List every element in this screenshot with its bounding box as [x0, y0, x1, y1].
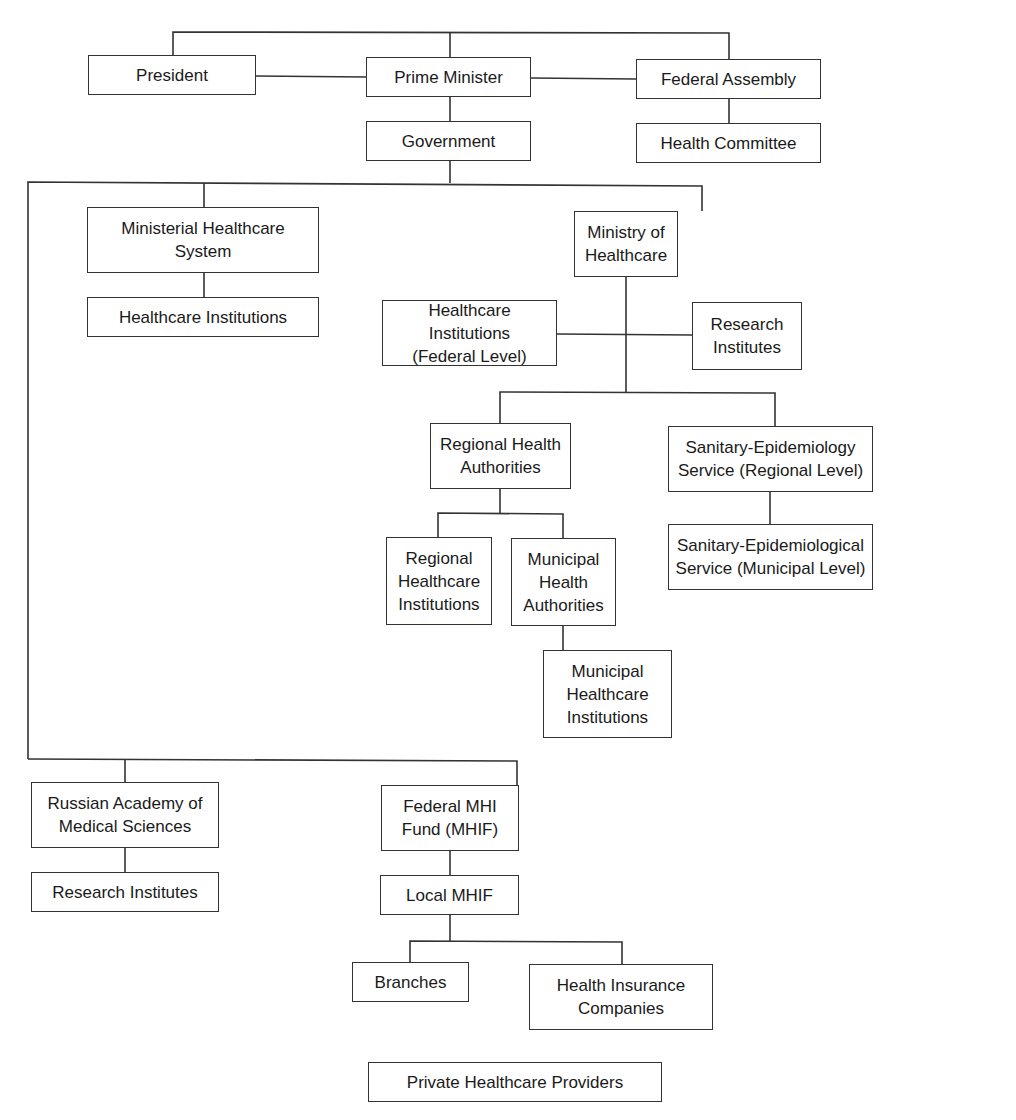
node-label: Russian Academy of Medical Sciences — [48, 792, 203, 838]
node-label: Government — [402, 130, 496, 153]
node-ministerial-healthcare-system: Ministerial Healthcare System — [87, 207, 319, 273]
node-label: Health Committee — [660, 132, 796, 155]
node-label: Branches — [375, 971, 447, 994]
node-label: Ministry of Healthcare — [585, 221, 667, 267]
node-label: Health Insurance Companies — [557, 974, 686, 1020]
node-russian-academy-medical-sciences: Russian Academy of Medical Sciences — [31, 782, 219, 848]
node-label: Municipal Healthcare Institutions — [566, 660, 648, 729]
node-health-committee: Health Committee — [636, 123, 821, 163]
node-label: Municipal Health Authorities — [523, 548, 603, 617]
node-label: Federal Assembly — [661, 68, 796, 91]
node-label: Ministerial Healthcare System — [121, 217, 284, 263]
node-label: Regional Healthcare Institutions — [398, 547, 480, 616]
node-label: Federal MHI Fund (MHIF) — [402, 795, 498, 841]
node-government: Government — [366, 121, 531, 161]
node-federal-assembly: Federal Assembly — [636, 59, 821, 99]
node-president: President — [88, 55, 256, 95]
node-municipal-health-authorities: Municipal Health Authorities — [511, 538, 616, 626]
node-regional-healthcare-institutions: Regional Healthcare Institutions — [386, 537, 492, 625]
node-ministry-of-healthcare: Ministry of Healthcare — [574, 211, 678, 277]
node-health-insurance-companies: Health Insurance Companies — [529, 964, 713, 1030]
node-label: Regional Health Authorities — [440, 433, 561, 479]
node-federal-mhi-fund: Federal MHI Fund (MHIF) — [381, 785, 519, 851]
node-sanitary-epidemiological-municipal: Sanitary-Epidemiological Service (Munici… — [668, 524, 873, 590]
node-label: Prime Minister — [394, 66, 503, 89]
node-regional-health-authorities: Regional Health Authorities — [430, 423, 571, 489]
node-label: Research Institutes — [711, 313, 784, 359]
node-label: Private Healthcare Providers — [407, 1071, 623, 1094]
node-municipal-healthcare-institutions: Municipal Healthcare Institutions — [543, 650, 672, 738]
node-label: Local MHIF — [406, 884, 493, 907]
node-label: President — [136, 64, 208, 87]
node-prime-minister: Prime Minister — [366, 57, 531, 97]
node-healthcare-institutions-federal: Healthcare Institutions (Federal Level) — [382, 300, 557, 366]
node-sanitary-epidemiology-regional: Sanitary-Epidemiology Service (Regional … — [668, 426, 873, 492]
node-label: Sanitary-Epidemiological Service (Munici… — [676, 534, 866, 580]
node-local-mhif: Local MHIF — [380, 875, 519, 915]
node-branches: Branches — [352, 962, 469, 1002]
node-research-institutes-academy: Research Institutes — [31, 872, 219, 912]
node-label: Sanitary-Epidemiology Service (Regional … — [678, 436, 863, 482]
node-healthcare-institutions: Healthcare Institutions — [87, 297, 319, 337]
node-research-institutes-ministry: Research Institutes — [692, 302, 802, 370]
node-label: Research Institutes — [52, 881, 198, 904]
node-private-healthcare-providers: Private Healthcare Providers — [368, 1062, 662, 1102]
node-label: Healthcare Institutions (Federal Level) — [389, 299, 550, 368]
node-label: Healthcare Institutions — [119, 306, 287, 329]
